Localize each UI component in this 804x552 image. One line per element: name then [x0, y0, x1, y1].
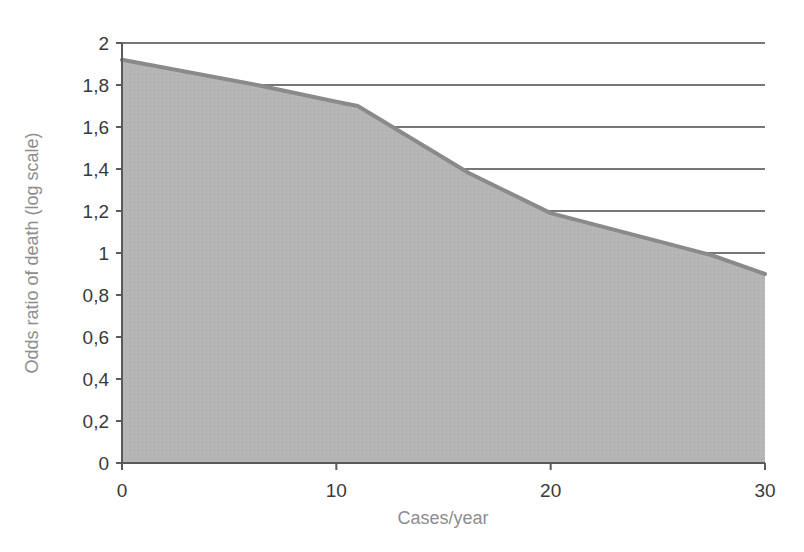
x-axis-title: Cases/year	[397, 508, 488, 528]
y-axis-tick-label: 1	[98, 243, 109, 264]
y-axis-tick-label: 1,2	[83, 201, 109, 222]
y-axis-tick-label: 0,2	[83, 411, 109, 432]
y-axis-tick-label: 1,6	[83, 117, 109, 138]
x-axis-tick-label: 10	[326, 480, 347, 501]
y-axis-tick-label: 0,8	[83, 285, 109, 306]
y-axis-tick-label: 0	[98, 453, 109, 474]
y-axis-title: Odds ratio of death (log scale)	[22, 132, 42, 373]
y-axis-tick-label: 1,4	[83, 159, 110, 180]
chart-container: 00,20,40,60,811,21,41,61,82 0102030 Case…	[0, 0, 804, 552]
y-axis-tick-label: 0,6	[83, 327, 109, 348]
y-axis-tick-label: 0,4	[83, 369, 110, 390]
x-axis-tick-label: 20	[540, 480, 561, 501]
y-axis-tick-label: 1,8	[83, 75, 109, 96]
x-axis-tick-label: 0	[117, 480, 128, 501]
area-chart: 00,20,40,60,811,21,41,61,82 0102030 Case…	[0, 0, 804, 552]
y-axis-tick-label: 2	[98, 33, 109, 54]
x-axis-tick-label: 30	[754, 480, 775, 501]
